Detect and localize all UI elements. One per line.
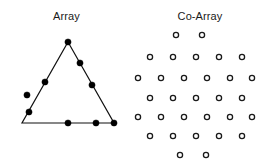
coarray-lag-dot — [177, 152, 182, 157]
array-scatter-plot — [0, 0, 133, 163]
array-sensor-dot — [26, 109, 32, 115]
coarray-lag-dot — [135, 75, 140, 80]
coarray-lag-dot — [227, 75, 232, 80]
coarray-lag-dot — [170, 54, 175, 59]
coarray-scatter-plot — [133, 0, 267, 163]
coarray-lag-dot — [239, 133, 244, 138]
coarray-lag-dot — [170, 133, 175, 138]
coarray-lag-dot — [147, 54, 152, 59]
coarray-lag-dot — [147, 95, 152, 100]
coarray-lag-dot — [249, 75, 254, 80]
array-sensor-dot — [93, 120, 99, 126]
coarray-lag-dot — [147, 133, 152, 138]
array-sensor-dots — [24, 39, 117, 126]
coarray-lag-dots — [135, 32, 254, 157]
coarray-lag-dot — [135, 114, 140, 119]
coarray-lag-dot — [204, 114, 209, 119]
array-sensor-dot — [89, 82, 95, 88]
array-sensor-dot — [111, 120, 117, 126]
coarray-lag-dot — [158, 114, 163, 119]
array-triangle-outline — [22, 42, 114, 123]
coarray-lag-dot — [227, 114, 232, 119]
coarray-panel: Co-Array — [133, 0, 267, 163]
coarray-lag-dot — [193, 54, 198, 59]
coarray-lag-dot — [203, 152, 208, 157]
coarray-lag-dot — [181, 75, 186, 80]
coarray-lag-dot — [193, 95, 198, 100]
coarray-lag-dot — [170, 95, 175, 100]
coarray-lag-dot — [216, 95, 221, 100]
coarray-lag-dot — [193, 133, 198, 138]
coarray-lag-dot — [249, 114, 254, 119]
figure-root: Array Co-Array — [0, 0, 267, 163]
array-sensor-dot — [24, 92, 30, 98]
coarray-lag-dot — [181, 114, 186, 119]
array-sensor-dot — [65, 39, 71, 45]
coarray-lag-dot — [199, 32, 204, 37]
array-panel: Array — [0, 0, 133, 163]
coarray-lag-dot — [204, 75, 209, 80]
array-sensor-dot — [77, 60, 83, 66]
coarray-lag-dot — [216, 133, 221, 138]
array-sensor-dot — [42, 79, 48, 85]
coarray-lag-dot — [173, 32, 178, 37]
array-sensor-dot — [65, 120, 71, 126]
coarray-lag-dot — [216, 54, 221, 59]
coarray-lag-dot — [239, 95, 244, 100]
coarray-lag-dot — [158, 75, 163, 80]
coarray-lag-dot — [239, 54, 244, 59]
